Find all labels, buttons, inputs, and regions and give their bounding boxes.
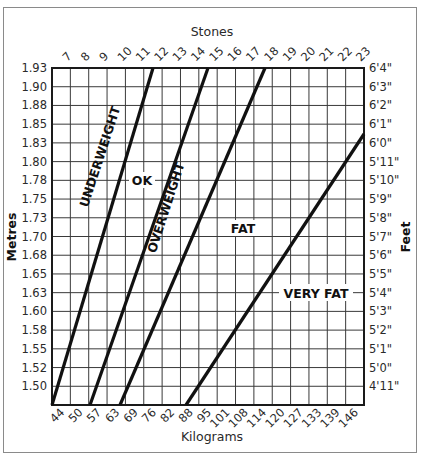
- x-tick-kilograms: 146: [336, 405, 361, 430]
- y-tick-feet: 5'5": [369, 267, 392, 281]
- y-tick-feet: 5'10": [369, 173, 399, 187]
- y-tick-metres: 1.55: [21, 342, 47, 356]
- y-tick-feet: 6'0": [369, 136, 392, 150]
- y-tick-feet: 5'2": [369, 323, 392, 337]
- y-tick-metres: 1.60: [21, 304, 47, 318]
- y-tick-feet: 6'1": [369, 117, 392, 131]
- y-tick-metres: 1.80: [21, 155, 47, 169]
- y-tick-metres: 1.90: [21, 80, 47, 94]
- y-tick-feet: 5'9": [369, 192, 392, 206]
- y-tick-feet: 5'4": [369, 286, 392, 300]
- height-weight-chart: 1.931.901.881.851.831.801.781.751.731.70…: [0, 0, 424, 456]
- y-tick-feet: 4'11": [369, 379, 399, 393]
- x-tick-stones: 7: [59, 49, 74, 64]
- zone-label-ok: OK: [132, 173, 154, 188]
- y-tick-feet: 5'7": [369, 230, 392, 244]
- y-tick-feet: 5'6": [369, 248, 392, 262]
- y-tick-metres: 1.63: [21, 286, 47, 300]
- y-tick-metres: 1.68: [21, 248, 47, 262]
- y-tick-metres: 1.73: [21, 211, 47, 225]
- right-axis-title: Feet: [398, 221, 413, 252]
- x-tick-stones: 9: [96, 49, 111, 64]
- zone-label-very-fat: VERY FAT: [284, 286, 349, 301]
- y-tick-metres: 1.52: [21, 361, 47, 375]
- y-tick-feet: 6'2": [369, 98, 392, 112]
- zone-label-fat: FAT: [231, 221, 256, 236]
- y-tick-metres: 1.83: [21, 136, 47, 150]
- y-tick-metres: 1.88: [21, 98, 47, 112]
- left-axis-title: Metres: [4, 213, 19, 262]
- y-tick-metres: 1.58: [21, 323, 47, 337]
- top-axis-title: Stones: [191, 24, 234, 39]
- bottom-axis-title: Kilograms: [181, 429, 243, 444]
- y-tick-metres: 1.50: [21, 379, 47, 393]
- y-tick-metres: 1.78: [21, 173, 47, 187]
- y-tick-feet: 6'3": [369, 80, 392, 94]
- y-tick-feet: 5'8": [369, 211, 392, 225]
- y-tick-metres: 1.93: [21, 61, 47, 75]
- y-tick-metres: 1.75: [21, 192, 47, 206]
- y-tick-feet: 5'11": [369, 155, 399, 169]
- y-tick-metres: 1.85: [21, 117, 47, 131]
- y-tick-feet: 6'4": [369, 61, 392, 75]
- x-tick-stones: 8: [78, 49, 93, 64]
- y-tick-metres: 1.70: [21, 230, 47, 244]
- y-tick-feet: 5'1": [369, 342, 392, 356]
- y-tick-feet: 5'0": [369, 361, 392, 375]
- y-tick-metres: 1.65: [21, 267, 47, 281]
- boundary-line-3: [186, 134, 364, 405]
- y-tick-feet: 5'3": [369, 304, 392, 318]
